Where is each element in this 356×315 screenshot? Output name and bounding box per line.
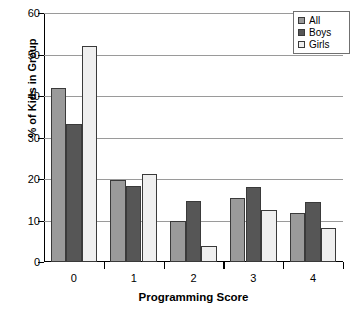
- bar-boys-1: [126, 186, 142, 262]
- bar-boys-3: [246, 187, 262, 262]
- y-tick-label: 10: [10, 216, 40, 226]
- x-axis-title: Programming Score: [44, 291, 343, 303]
- y-axis-title: % of Kids in Group: [26, 0, 38, 178]
- legend-swatch-icon: [298, 29, 305, 36]
- legend-item-all[interactable]: All: [298, 15, 346, 26]
- y-tick-label: 0: [10, 257, 40, 267]
- x-tick-label: 1: [114, 272, 154, 284]
- x-tick-mark: [164, 262, 165, 269]
- bar-girls-0: [82, 46, 98, 262]
- bar-all-0: [51, 88, 67, 262]
- x-tick-label: 3: [233, 272, 273, 284]
- x-tick-mark: [223, 262, 224, 269]
- x-tick-mark: [283, 262, 284, 269]
- bar-boys-0: [66, 124, 82, 262]
- bar-boys-4: [305, 202, 321, 262]
- x-tick-mark: [343, 262, 344, 269]
- legend-swatch-icon: [298, 17, 305, 24]
- bar-all-4: [290, 213, 306, 262]
- bar-boys-2: [186, 201, 202, 262]
- legend-item-label: All: [309, 16, 320, 26]
- bar-all-3: [230, 198, 246, 262]
- y-tick-label: 50: [10, 50, 40, 60]
- bar-girls-2: [201, 246, 217, 262]
- legend-item-label: Girls: [309, 40, 330, 50]
- legend-swatch-icon: [298, 41, 305, 48]
- bar-chart: % of Kids in Group 0102030405060 01234 P…: [0, 0, 356, 315]
- bar-girls-1: [142, 174, 158, 262]
- y-tick-label: 30: [10, 133, 40, 143]
- x-tick-mark: [104, 262, 105, 269]
- legend-item-label: Boys: [309, 28, 331, 38]
- bar-all-2: [170, 221, 186, 262]
- y-tick-label: 40: [10, 91, 40, 101]
- x-tick-label: 0: [54, 272, 94, 284]
- y-tick-label: 60: [10, 8, 40, 18]
- y-tick-label: 20: [10, 174, 40, 184]
- chart-legend: AllBoysGirls: [293, 11, 350, 54]
- bar-all-1: [110, 180, 126, 262]
- x-tick-label: 2: [174, 272, 214, 284]
- bar-girls-3: [261, 210, 277, 262]
- bar-girls-4: [321, 228, 337, 262]
- x-tick-label: 4: [293, 272, 333, 284]
- legend-item-boys[interactable]: Boys: [298, 27, 346, 38]
- legend-item-girls[interactable]: Girls: [298, 39, 346, 50]
